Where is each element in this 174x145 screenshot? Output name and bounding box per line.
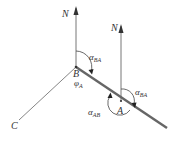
arc-arrowhead-icon: [108, 93, 113, 99]
angle-label-alpha-ba-at-a: αBA: [135, 87, 147, 98]
north-label-b: N: [61, 8, 70, 19]
north-label-a: N: [110, 22, 119, 33]
point-a-marker: [120, 100, 122, 102]
point-label-a: A: [116, 105, 124, 116]
north-arrow-at-b: [74, 6, 79, 67]
angle-label-alpha-ba-at-b: αBA: [89, 52, 101, 63]
angle-label-phi-a: φA: [74, 78, 83, 89]
north-arrow-at-a: [119, 24, 124, 101]
line-bc: [19, 67, 76, 120]
angle-label-alpha-ab: αAB: [88, 107, 100, 118]
arc-arrowhead-icon: [89, 69, 94, 75]
north-arrowhead-icon: [74, 6, 79, 15]
point-label-c: C: [11, 120, 18, 131]
line-ba: [76, 67, 167, 128]
azimuth-diagram: N N B A C αBA φA αBA αAB: [0, 0, 174, 145]
north-arrowhead-icon: [119, 24, 124, 33]
